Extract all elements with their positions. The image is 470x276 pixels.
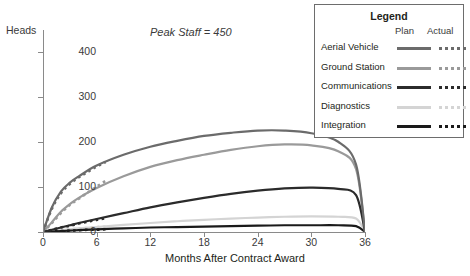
legend-swatch-plan [397,125,431,128]
legend-item-label: Integration [321,119,366,130]
y-axis-title: Heads [6,24,36,36]
y-tick-mark [38,52,43,53]
y-tick-label: 100 [78,180,96,192]
y-tick-mark [38,97,43,98]
legend-item-label: Communications [321,80,392,91]
x-tick-label: 24 [252,236,264,248]
legend: Legend Plan Actual Aerial VehicleGround … [314,4,464,138]
legend-swatch-actual [439,125,469,128]
y-axis-line [43,30,44,232]
y-tick-label: 400 [78,45,96,57]
legend-swatch-actual [439,86,469,89]
staffing-profile-chart: Heads Peak Staff = 450 0100200300400 061… [0,0,470,276]
legend-item-label: Aerial Vehicle [321,41,379,52]
legend-title: Legend [315,10,463,22]
legend-items: Aerial VehicleGround StationCommunicatio… [315,39,463,137]
legend-swatch-plan [397,86,431,89]
legend-swatch-actual [439,67,469,70]
legend-item[interactable]: Ground Station [315,59,463,79]
y-tick-label: 200 [78,135,96,147]
legend-header-plan: Plan [395,25,414,36]
legend-item-label: Diagnostics [321,100,370,111]
x-tick-label: 18 [198,236,210,248]
y-tick-mark [38,187,43,188]
legend-swatch-actual [439,106,469,109]
legend-swatch-actual [439,47,469,50]
legend-item[interactable]: Aerial Vehicle [315,39,463,59]
x-tick-label: 36 [359,236,371,248]
legend-swatch-plan [397,67,431,70]
legend-item-label: Ground Station [321,61,385,72]
y-tick-mark [38,142,43,143]
legend-item[interactable]: Diagnostics [315,98,463,118]
x-axis-title: Months After Contract Award [0,252,470,264]
x-tick-label: 6 [94,236,100,248]
legend-item[interactable]: Integration [315,117,463,137]
x-tick-label: 30 [305,236,317,248]
legend-swatch-plan [397,106,431,109]
x-tick-label: 12 [144,236,156,248]
legend-swatch-plan [397,47,431,50]
y-tick-label: 300 [78,90,96,102]
x-tick-label: 0 [40,236,46,248]
legend-header-actual: Actual [427,25,453,36]
legend-item[interactable]: Communications [315,78,463,98]
